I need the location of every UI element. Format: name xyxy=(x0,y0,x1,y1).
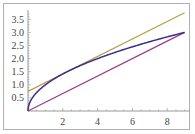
secant-line xyxy=(28,32,185,111)
x-tick-label: 6 xyxy=(130,116,135,127)
y-tick-label: 2.5 xyxy=(12,40,25,51)
y-tick-label: 0.5 xyxy=(12,92,25,103)
y-tick-label: 3.0 xyxy=(12,27,25,38)
x-axis-labels: 2468 xyxy=(60,116,169,127)
tangent-line xyxy=(28,13,185,92)
x-tick-label: 8 xyxy=(165,116,170,127)
y-tick-label: 3.5 xyxy=(12,14,25,25)
y-tick-label: 1.0 xyxy=(12,79,25,90)
y-tick-label: 1.5 xyxy=(12,66,25,77)
plot-area: 2468 0.51.01.52.02.53.03.5 xyxy=(0,0,195,134)
y-axis-labels: 0.51.01.52.02.53.03.5 xyxy=(12,14,25,104)
y-tick-label: 2.0 xyxy=(12,53,25,64)
x-tick-label: 2 xyxy=(60,116,65,127)
x-tick-label: 4 xyxy=(95,116,100,127)
